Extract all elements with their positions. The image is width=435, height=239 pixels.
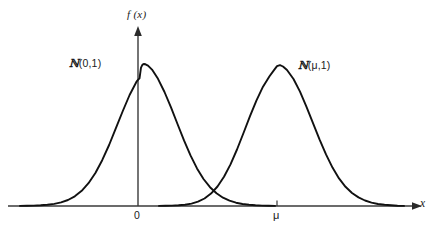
annotation-shifted-normal: ℕ(μ,1) (298, 60, 331, 71)
script-n-glyph-left: ℕ (69, 57, 79, 70)
annotation-standard-normal-args: (0,1) (79, 57, 102, 69)
x-axis-label: x (420, 198, 425, 210)
y-axis-arrowhead (134, 26, 142, 36)
curve-shifted-normal (159, 65, 404, 206)
plot-canvas (0, 0, 435, 239)
script-n-glyph-right: ℕ (298, 59, 308, 72)
annotation-standard-normal: ℕ(0,1) (69, 58, 101, 69)
y-axis-label: f (x) (127, 9, 147, 20)
annotation-shifted-normal-args: (μ,1) (308, 59, 331, 71)
x-tick-label-mu: μ (273, 210, 279, 221)
curve-standard-normal (20, 64, 275, 206)
normal-distributions-figure: f (x) x 0 μ ℕ(0,1) ℕ(μ,1) (0, 0, 435, 239)
x-tick-label-zero: 0 (134, 210, 140, 221)
